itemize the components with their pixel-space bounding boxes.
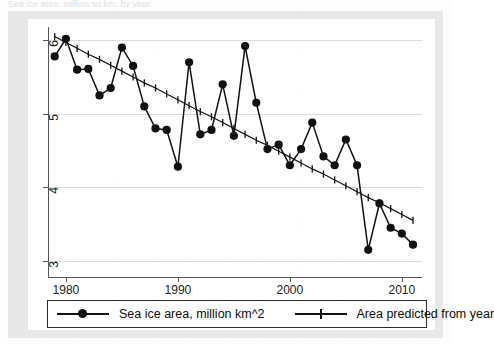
data-point	[118, 43, 126, 51]
data-point	[151, 124, 159, 132]
chart-legend: Sea ice area, million km^2 Area predicte…	[47, 300, 427, 328]
data-point	[398, 230, 406, 238]
plus-marker-icon	[295, 307, 347, 321]
data-point	[73, 66, 81, 74]
plot-area: 3456 1980199020002010 Year	[48, 27, 422, 278]
data-point	[342, 135, 350, 143]
data-point	[140, 102, 148, 110]
data-point	[84, 65, 92, 73]
data-point	[163, 126, 171, 134]
legend-entry-predicted: Area predicted from year	[295, 301, 494, 327]
data-point	[207, 126, 215, 134]
data-point	[331, 161, 339, 169]
data-point	[286, 161, 294, 169]
data-point	[308, 118, 316, 126]
data-point	[319, 152, 327, 160]
series-markers-1	[55, 33, 413, 224]
legend-entry-observed: Sea ice area, million km^2	[57, 301, 265, 327]
data-point	[219, 80, 227, 88]
series-line-0	[55, 39, 413, 250]
legend-label-observed: Sea ice area, million km^2	[119, 307, 265, 321]
data-point	[409, 241, 417, 249]
data-point	[230, 132, 238, 140]
plot-inner: 3456 1980199020002010 Year	[48, 27, 422, 278]
data-point	[241, 42, 249, 50]
x-tick-label: 2010	[388, 283, 415, 297]
data-point	[129, 62, 137, 70]
data-series-layer	[48, 27, 422, 278]
data-point	[297, 145, 305, 153]
circle-marker-icon	[57, 307, 109, 321]
chart-figure: 3456 1980199020002010 Year Sea ice area,…	[8, 11, 443, 338]
data-point	[364, 246, 372, 254]
data-point	[196, 130, 204, 138]
data-point	[353, 161, 361, 169]
data-point	[275, 141, 283, 149]
x-tick-label: 1990	[165, 283, 192, 297]
data-point	[174, 163, 182, 171]
cut-off-title-text: Sea ice area, million sq km, by year	[8, 0, 308, 7]
data-point	[185, 58, 193, 66]
data-point	[95, 91, 103, 99]
data-point	[252, 99, 260, 107]
data-point	[387, 224, 395, 232]
data-point	[107, 84, 115, 92]
series-markers-0	[51, 35, 418, 254]
data-point	[51, 52, 59, 60]
x-tick-label: 1980	[53, 283, 80, 297]
legend-label-predicted: Area predicted from year	[357, 307, 494, 321]
x-tick-label: 2000	[277, 283, 304, 297]
